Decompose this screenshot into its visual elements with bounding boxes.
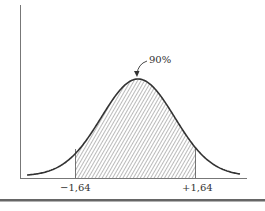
tick-label-right: +1,64 — [182, 182, 213, 193]
tick-label-left: −1,64 — [60, 182, 91, 193]
chart-canvas — [0, 0, 265, 211]
bottom-rule — [0, 199, 265, 202]
shaded-90-percent-area — [75, 79, 196, 178]
normal-distribution-figure: 90% −1,64 +1,64 — [0, 0, 265, 211]
arrow-head-icon — [134, 71, 140, 77]
annotation-90-percent: 90% — [149, 54, 171, 65]
